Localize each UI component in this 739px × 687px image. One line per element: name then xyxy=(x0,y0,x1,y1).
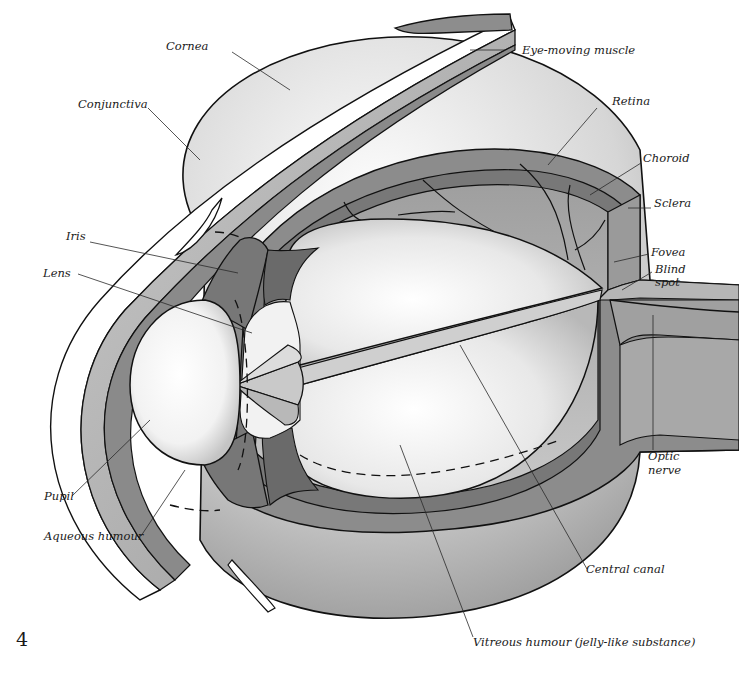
label-vitreous-humour: Vitreous humour (jelly-like substance) xyxy=(473,635,695,649)
label-conjunctiva: Conjunctiva xyxy=(78,97,148,111)
label-eye-moving-muscle: Eye-moving muscle xyxy=(521,43,635,57)
label-blind-spot-line1: Blind xyxy=(654,262,686,276)
page-number: 4 xyxy=(16,628,28,650)
label-optic-nerve-line1: Optic xyxy=(648,449,680,463)
label-iris: Iris xyxy=(65,229,86,243)
label-blind-spot-line2: spot xyxy=(655,275,680,289)
label-aqueous-humour: Aqueous humour xyxy=(43,529,145,543)
label-pupil: Pupil xyxy=(43,489,74,503)
label-central-canal: Central canal xyxy=(586,562,665,576)
label-optic-nerve-line2: nerve xyxy=(648,463,681,477)
label-sclera: Sclera xyxy=(654,196,691,210)
eye-diagram: Cornea Eye-moving muscle Conjunctiva Ret… xyxy=(0,0,739,687)
label-fovea: Fovea xyxy=(650,245,686,259)
eye-moving-muscle-shape xyxy=(395,14,512,33)
label-cornea: Cornea xyxy=(166,39,208,53)
label-choroid: Choroid xyxy=(643,151,690,165)
label-retina: Retina xyxy=(611,94,650,108)
optic-nerve-shape xyxy=(610,300,739,445)
label-lens: Lens xyxy=(42,266,71,280)
